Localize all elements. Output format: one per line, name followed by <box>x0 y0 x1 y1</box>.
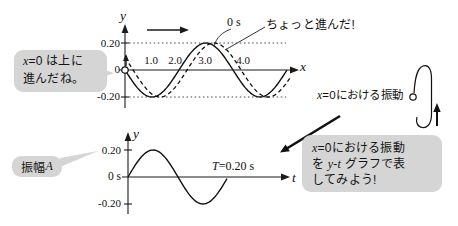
bubble-moved-up: x=0 は上に 進んだね。 <box>14 50 107 92</box>
bubble-yt-line2: を y-t グラフで表 <box>312 156 442 172</box>
bubble-yt-line3: してみよう! <box>312 172 442 188</box>
period-label: T=0.20 s <box>212 160 254 173</box>
leader-line-0s <box>214 29 231 47</box>
bottom-t-axis-arrowhead <box>281 174 290 181</box>
top-x-axis-label: x <box>300 60 306 75</box>
bubble-moved-up-line1: x=0 は上に <box>23 52 107 70</box>
top-y-axis-label: y <box>120 9 126 24</box>
oscillation-at-x0-label: x=0における振動 <box>317 89 403 102</box>
top-xtick-4: 4.0 <box>233 54 253 66</box>
curve-label-0s: 0 s <box>227 16 241 29</box>
bottom-y-axis-label: y <box>133 127 139 142</box>
bottom-ytick-pos-label: 0.20 <box>91 144 121 156</box>
top-ytick-pos-label: 0.20 <box>90 37 120 49</box>
bottom-t-axis-label: t <box>292 171 296 186</box>
origin-point-circle <box>122 67 128 73</box>
bubble-amplitude: 振幅A <box>12 156 62 177</box>
bottom-y-axis-arrowhead <box>125 132 132 141</box>
top-origin-label: 0 <box>111 63 120 75</box>
bubble-yt-graph: x=0における振動 を y-t グラフで表 してみよう! <box>302 135 442 192</box>
physics-wave-figure: y 0.20 -0.20 0 1.0 2.0 3.0 4.0 x 0 s ちょっ… <box>0 0 458 226</box>
bottom-origin-label: 0 s <box>94 170 121 183</box>
figure-line-art <box>0 0 458 226</box>
top-xtick-1: 1.0 <box>141 54 161 66</box>
bubble-moved-up-line2: 進んだね。 <box>23 70 107 88</box>
top-xtick-2: 2.0 <box>165 54 185 66</box>
leader-line-advanced <box>225 27 265 50</box>
oscillation-up-arrow-head <box>433 103 440 112</box>
top-x-axis-arrowhead <box>290 67 299 74</box>
curve-label-advanced: ちょっと進んだ! <box>266 19 355 32</box>
propagation-arrow-head <box>180 27 189 34</box>
top-y-axis-arrowhead <box>122 24 129 33</box>
bottom-ytick-neg-label: -0.20 <box>84 197 121 209</box>
bubble-yt-line1: x=0における振動 <box>312 140 442 156</box>
origin-up-arrow-head <box>123 54 129 61</box>
oscillation-bead-circle <box>410 94 416 100</box>
top-xtick-3: 3.0 <box>195 54 215 66</box>
